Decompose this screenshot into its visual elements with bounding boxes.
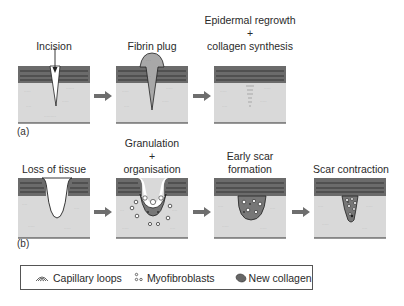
svg-text:·····: ·····: [64, 226, 71, 231]
panel-label-b: (b): [17, 238, 29, 249]
svg-text:····: ····: [222, 104, 227, 109]
legend-label: New collagen: [249, 272, 312, 284]
svg-text:·····: ·····: [122, 89, 129, 94]
svg-text:····: ····: [270, 206, 275, 211]
skin-panel-loss-of-tissue: ··················: [14, 166, 94, 246]
arrow-right-icon: [292, 207, 310, 217]
myofibroblasts-icon: [134, 272, 144, 284]
svg-text:····: ····: [22, 202, 27, 207]
svg-text:·····: ·····: [322, 222, 329, 227]
legend-item-new-collagen: New collagen: [235, 272, 312, 284]
svg-text:···: ···: [120, 208, 124, 213]
svg-text:····: ····: [362, 226, 367, 231]
legend-item-capillary-loops: Capillary loops: [35, 272, 122, 284]
arrow-right-icon: [94, 207, 112, 217]
svg-text:·····: ·····: [162, 99, 169, 104]
svg-text:····: ····: [170, 226, 175, 231]
arrow-right-icon: [193, 91, 211, 101]
svg-text:·····: ·····: [260, 226, 267, 231]
stage-label-epidermal-regrowth: Epidermal regrowth: [200, 14, 300, 26]
skin-panel-early-scar: ··················: [210, 166, 290, 246]
legend-item-myofibroblasts: Myofibroblasts: [134, 272, 215, 284]
svg-text:·····: ·····: [166, 86, 173, 91]
stage-label-early-scar: Early scar: [210, 150, 290, 162]
skin-panel-scar-contraction: ··················: [310, 166, 390, 246]
skin-panel-granulation: ················: [112, 166, 192, 246]
skin-panel-epidermal-regrowth: ···················: [210, 48, 290, 128]
svg-text:····: ····: [26, 104, 31, 109]
stage-label-plus: +: [200, 27, 300, 39]
arrow-right-icon: [193, 207, 211, 217]
svg-text:····: ····: [172, 208, 177, 213]
capillary-loops-icon: [35, 274, 49, 282]
svg-text:······: ······: [66, 86, 74, 91]
panel-label-a: (a): [17, 126, 29, 137]
svg-text:· · ·: · · ·: [146, 59, 151, 63]
skin-panel-incision: ·····························: [14, 48, 94, 128]
svg-text:····: ····: [218, 204, 223, 209]
svg-text:····: ····: [74, 206, 79, 211]
svg-text:·········: ·········: [44, 114, 56, 119]
stage-label-plus: +: [110, 150, 194, 162]
stage-label-granulation: Granulation: [110, 137, 194, 149]
svg-text:·····: ·····: [62, 99, 69, 104]
skin-panel-fibrin-plug: · · ·· ·· · ···················: [112, 48, 192, 128]
svg-text:····: ····: [124, 104, 129, 109]
svg-text:·····: ·····: [264, 86, 271, 91]
svg-text:·····: ·····: [366, 204, 373, 209]
legend-label: Myofibroblasts: [147, 272, 215, 284]
svg-text:·····: ·····: [122, 226, 129, 231]
legend: Capillary loops Myofibroblasts New colla…: [20, 265, 313, 290]
svg-text:· ·: · ·: [149, 89, 152, 93]
svg-text:· ·: · ·: [148, 75, 151, 79]
new-collagen-icon: [235, 273, 247, 283]
arrow-right-icon: [94, 91, 112, 101]
svg-text:·····: ·····: [24, 89, 31, 94]
legend-label: Capillary loops: [53, 272, 122, 284]
svg-text:·····: ·····: [222, 224, 229, 229]
svg-text:·····: ·····: [260, 99, 267, 104]
svg-text:·····: ·····: [28, 224, 35, 229]
svg-text:·····: ·····: [220, 89, 227, 94]
svg-text:····: ····: [318, 204, 323, 209]
